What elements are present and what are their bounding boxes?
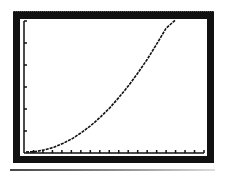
graph-plot <box>20 19 207 156</box>
data-curve <box>26 20 175 152</box>
calculator-screen-frame <box>13 11 214 163</box>
graph-screen <box>20 19 207 156</box>
divider-line <box>10 169 215 171</box>
